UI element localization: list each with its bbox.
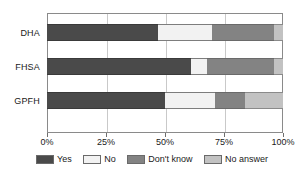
bar-row <box>0 92 300 109</box>
x-tick-label: 100% <box>263 137 300 147</box>
legend-item-noanswer[interactable]: No answer <box>204 154 268 164</box>
bar-segment-noanswer <box>274 24 283 41</box>
legend-label: No answer <box>225 154 268 164</box>
x-tick-label: 75% <box>204 137 244 147</box>
bar-segment-noanswer <box>274 58 283 75</box>
bar-segment-no <box>158 24 212 41</box>
bar-segment-no <box>191 58 208 75</box>
x-tick-label: 25% <box>86 137 126 147</box>
bar-segment-dontknow <box>207 58 273 75</box>
legend-label: Yes <box>57 154 72 164</box>
legend-label: No <box>104 154 116 164</box>
bar-segment-yes <box>47 58 191 75</box>
bar-segment-no <box>165 92 215 109</box>
legend-swatch-icon <box>36 155 54 164</box>
bar-segment-noanswer <box>245 92 283 109</box>
legend-label: Don't know <box>148 154 192 164</box>
bar-segment-dontknow <box>215 92 246 109</box>
bar-row <box>0 58 300 75</box>
stacked-bar-chart: DHA FHSA GPFH 0%25%50%75%100% YesNoDon't… <box>0 0 300 171</box>
chart-legend: YesNoDon't knowNo answer <box>36 152 268 166</box>
legend-swatch-icon <box>83 155 101 164</box>
bar-row <box>0 24 300 41</box>
legend-swatch-icon <box>127 155 145 164</box>
legend-swatch-icon <box>204 155 222 164</box>
x-tick-label: 0% <box>27 137 67 147</box>
legend-item-yes[interactable]: Yes <box>36 154 72 164</box>
legend-item-no[interactable]: No <box>83 154 116 164</box>
x-tick-label: 50% <box>145 137 185 147</box>
bar-segment-dontknow <box>212 24 273 41</box>
bar-segment-yes <box>47 92 165 109</box>
legend-item-dontknow[interactable]: Don't know <box>127 154 192 164</box>
bar-segment-yes <box>47 24 158 41</box>
